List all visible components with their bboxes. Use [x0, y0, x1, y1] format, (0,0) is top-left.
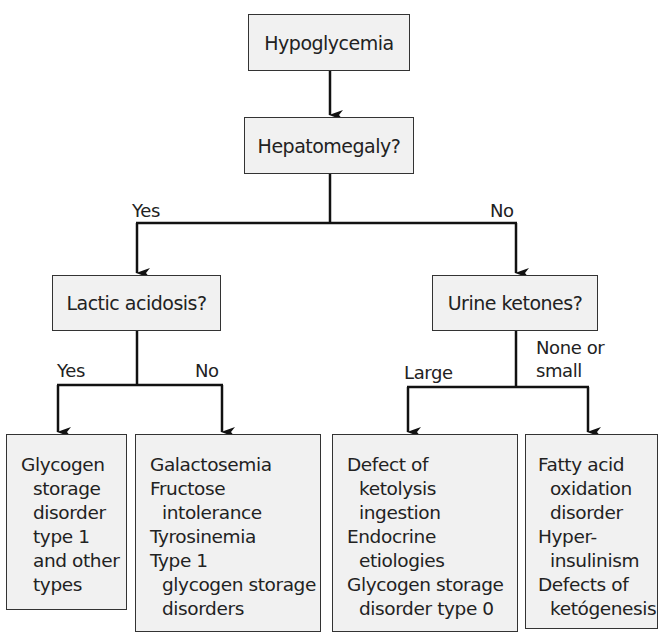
outcome-line: Defect of	[347, 453, 517, 477]
outcome-line: type 1	[21, 525, 126, 549]
node-label: Urine ketones?	[448, 292, 583, 314]
outcome-line: Galactosemia	[150, 453, 320, 477]
outcome-line: Tyrosinemia	[150, 525, 320, 549]
outcome-line: oxidation	[538, 477, 657, 501]
outcome-line: types	[21, 573, 126, 597]
node-label: Lactic acidosis?	[66, 292, 206, 314]
edge-label-lactic-yes: Yes	[57, 361, 85, 381]
node-label: Hepatomegaly?	[258, 135, 401, 157]
edge-label-yes: Yes	[132, 201, 160, 221]
outcome-line: glycogen storage	[150, 573, 320, 597]
outcome-line: storage	[21, 477, 126, 501]
outcome-line: disorder	[21, 501, 126, 525]
node-lactic-acidosis: Lactic acidosis?	[52, 275, 221, 331]
outcome-line: Type 1	[150, 549, 320, 573]
node-label: Hypoglycemia	[264, 32, 393, 54]
outcome-line: Fatty acid	[538, 453, 657, 477]
edge-label-lactic-no: No	[195, 361, 219, 381]
outcome-line: Defects of	[538, 573, 657, 597]
node-urine-ketones: Urine ketones?	[432, 275, 598, 331]
outcome-line: and other	[21, 549, 126, 573]
edge-label-no: No	[490, 201, 514, 221]
outcome-line: disorder type 0	[347, 597, 517, 621]
outcome-line: Endocrine	[347, 525, 517, 549]
outcome-box-ketolysis: Defect of ketolysis ingestion Endocrine …	[332, 434, 518, 632]
outcome-line: ingestion	[347, 501, 517, 525]
flowchart-canvas: Hypoglycemia Hepatomegaly? Yes No Lactic…	[0, 0, 662, 640]
outcome-box-glycogen-storage: Glycogen storage disorder type 1 and oth…	[6, 434, 127, 610]
outcome-line: ketógenesis	[538, 597, 657, 621]
outcome-line: Glycogen	[21, 453, 126, 477]
outcome-line: etiologies	[347, 549, 517, 573]
outcome-box-fatty-acid: Fatty acid oxidation disorder Hyper- ins…	[525, 434, 658, 629]
outcome-line: Hyper-	[538, 525, 657, 549]
outcome-line: ketolysis	[347, 477, 517, 501]
outcome-line: intolerance	[150, 501, 320, 525]
edge-label-small: small	[536, 361, 582, 381]
edge-label-large: Large	[404, 363, 453, 383]
outcome-line: disorder	[538, 501, 657, 525]
node-hypoglycemia: Hypoglycemia	[248, 14, 410, 71]
outcome-line: insulinism	[538, 549, 657, 573]
edge-label-none-or: None or	[536, 338, 604, 358]
outcome-line: disorders	[150, 597, 320, 621]
outcome-line: Glycogen storage	[347, 573, 517, 597]
outcome-box-galactosemia: Galactosemia Fructose intolerance Tyrosi…	[135, 434, 321, 632]
node-hepatomegaly: Hepatomegaly?	[244, 117, 414, 174]
outcome-line: Fructose	[150, 477, 320, 501]
